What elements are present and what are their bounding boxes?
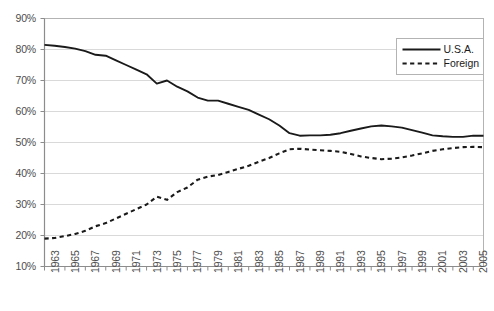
x-axis-label: 1991 bbox=[334, 250, 346, 273]
x-axis-label: 1975 bbox=[171, 250, 183, 273]
x-axis-label: 1993 bbox=[355, 250, 367, 273]
x-axis-label: 1997 bbox=[396, 250, 408, 273]
y-axis-label: 30% bbox=[2, 198, 36, 210]
legend-item-label: Foreign bbox=[444, 57, 480, 69]
y-axis-label: 50% bbox=[2, 136, 36, 148]
x-axis-label: 2003 bbox=[457, 250, 469, 273]
legend-item-label: U.S.A. bbox=[444, 43, 474, 55]
y-axis-label: 80% bbox=[2, 43, 36, 55]
x-axis-label: 2001 bbox=[436, 250, 448, 273]
x-axis-label: 1989 bbox=[314, 250, 326, 273]
x-axis-label: 1965 bbox=[69, 250, 81, 273]
x-axis-label: 2005 bbox=[477, 250, 489, 273]
x-axis-label: 1981 bbox=[232, 250, 244, 273]
y-axis-label: 70% bbox=[2, 74, 36, 86]
x-axis-label: 1999 bbox=[416, 250, 428, 273]
line-chart: 90%80%70%60%50%40%30%20%10% 196319651967… bbox=[0, 0, 494, 311]
y-axis-label: 10% bbox=[2, 260, 36, 272]
y-axis-label: 60% bbox=[2, 105, 36, 117]
y-axis-label: 20% bbox=[2, 229, 36, 241]
series-line-2 bbox=[45, 147, 484, 239]
x-axis-label: 1995 bbox=[375, 250, 387, 273]
x-axis-label: 1987 bbox=[294, 250, 306, 273]
x-axis-label: 1983 bbox=[253, 250, 265, 273]
x-axis-label: 1977 bbox=[191, 250, 203, 273]
x-axis-label: 1971 bbox=[130, 250, 142, 273]
y-axis-label: 90% bbox=[2, 12, 36, 24]
x-axis-label: 1979 bbox=[212, 250, 224, 273]
x-axis-label: 1967 bbox=[89, 250, 101, 273]
x-axis-label: 1969 bbox=[110, 250, 122, 273]
y-axis-label: 40% bbox=[2, 167, 36, 179]
x-axis-label: 1963 bbox=[49, 250, 61, 273]
x-axis-label: 1973 bbox=[151, 250, 163, 273]
x-axis-label: 1985 bbox=[273, 250, 285, 273]
